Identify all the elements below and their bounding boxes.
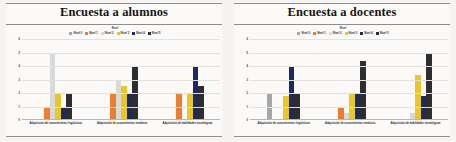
x-axis-labels-alumnos: Adquisición de conocimientos lingüístico… bbox=[22, 121, 220, 134]
y-axis-tick-label: 4 bbox=[246, 65, 248, 68]
gridline bbox=[22, 53, 220, 54]
y-axis-tick-label: 5 bbox=[18, 51, 20, 54]
gridline bbox=[22, 93, 220, 94]
legend-title: Nivel bbox=[8, 27, 222, 30]
gridline bbox=[22, 66, 220, 67]
y-axis-tick-label: 3 bbox=[246, 78, 248, 81]
panel-rule-bottom bbox=[234, 136, 450, 137]
legend-item-5[interactable]: Nivel 5 bbox=[376, 32, 389, 35]
legend-swatch-icon bbox=[85, 32, 88, 35]
legend-swatch-icon bbox=[69, 32, 72, 35]
gridline bbox=[250, 66, 448, 67]
x-axis-line bbox=[22, 119, 220, 120]
legend-label: Nivel 5 bbox=[152, 32, 161, 35]
legend-item-4[interactable]: Nivel 4 bbox=[360, 32, 373, 35]
legend-swatch-icon bbox=[132, 32, 135, 35]
bar[interactable] bbox=[198, 86, 204, 120]
x-axis-category-label: Adquisición de habilidades tecnológicas bbox=[162, 122, 212, 125]
legend-swatch-icon bbox=[148, 32, 151, 35]
y-axis-tick-label: 0 bbox=[246, 119, 248, 122]
legend-label: Nivel 5 bbox=[380, 32, 389, 35]
y-axis-tick-label: 2 bbox=[18, 92, 20, 95]
y-axis-tick-label: 1 bbox=[18, 105, 20, 108]
legend-item-4[interactable]: Nivel 4 bbox=[132, 32, 145, 35]
gridline bbox=[250, 39, 448, 40]
legend-item-0[interactable]: Nivel 0 bbox=[69, 32, 82, 35]
legend-label: Nivel 1 bbox=[317, 32, 326, 35]
legend-swatch-icon bbox=[297, 32, 300, 35]
x-axis-category-label: Adquisición de conocimientos temáticos bbox=[97, 122, 147, 125]
panel-rule-under-title bbox=[234, 24, 450, 25]
x-axis-labels-docentes: Adquisición de conocimientos lingüístico… bbox=[250, 121, 448, 134]
legend-swatch-icon bbox=[313, 32, 316, 35]
legend-item-0[interactable]: Nivel 0 bbox=[297, 32, 310, 35]
panel-rule-top bbox=[234, 3, 450, 4]
legend-item-3[interactable]: Nivel 3 bbox=[117, 32, 130, 35]
legend-label: Nivel 4 bbox=[364, 32, 373, 35]
legend-label: Nivel 1 bbox=[89, 32, 98, 35]
panel-rule-bottom bbox=[6, 136, 222, 137]
legend-item-2[interactable]: Nivel 2 bbox=[101, 32, 114, 35]
x-axis-line bbox=[250, 119, 448, 120]
y-axis-tick-label: 1 bbox=[246, 105, 248, 108]
legend-label: Nivel 4 bbox=[136, 32, 145, 35]
gridline bbox=[22, 80, 220, 81]
legend-label: Nivel 3 bbox=[349, 32, 358, 35]
bar[interactable] bbox=[360, 61, 366, 120]
x-axis-category-label: Adquisición de conocimientos temáticos bbox=[325, 122, 375, 125]
legend-title: Nivel bbox=[236, 27, 450, 30]
legend-swatch-icon bbox=[101, 32, 104, 35]
legend-swatch-icon bbox=[345, 32, 348, 35]
legend-swatch-icon bbox=[117, 32, 120, 35]
legend-swatch-icon bbox=[360, 32, 363, 35]
legend-docentes: Nivel 0Nivel 1Nivel 2Nivel 3Nivel 4Nivel… bbox=[236, 32, 450, 35]
legend-item-1[interactable]: Nivel 1 bbox=[85, 32, 98, 35]
page-title-alumnos: Encuesta a alumnos bbox=[0, 5, 228, 20]
legend-alumnos: Nivel 0Nivel 1Nivel 2Nivel 3Nivel 4Nivel… bbox=[8, 32, 222, 35]
panel-rule-under-title bbox=[6, 24, 222, 25]
gridline bbox=[250, 80, 448, 81]
x-axis-category-label: Adquisición de habilidades tecnológicas bbox=[390, 122, 440, 125]
y-axis-tick-label: 3 bbox=[18, 78, 20, 81]
panel-rule-top bbox=[6, 3, 222, 4]
chart-docentes: Nivel Nivel 0Nivel 1Nivel 2Nivel 3Nivel … bbox=[236, 26, 450, 135]
chart-alumnos: Nivel Nivel 0Nivel 1Nivel 2Nivel 3Nivel … bbox=[8, 26, 222, 135]
legend-item-3[interactable]: Nivel 3 bbox=[345, 32, 358, 35]
y-axis-tick-label: 6 bbox=[18, 38, 20, 41]
y-axis-tick-label: 5 bbox=[246, 51, 248, 54]
legend-label: Nivel 2 bbox=[105, 32, 114, 35]
gridline bbox=[250, 53, 448, 54]
chart-panel-alumnos: Encuesta a alumnos Nivel Nivel 0Nivel 1N… bbox=[0, 0, 228, 142]
x-axis-category-label: Adquisición de conocimientos lingüístico… bbox=[257, 122, 310, 125]
gridline bbox=[22, 107, 220, 108]
legend-label: Nivel 0 bbox=[301, 32, 310, 35]
gridline bbox=[250, 93, 448, 94]
figure-container: Encuesta a alumnos Nivel Nivel 0Nivel 1N… bbox=[0, 0, 456, 142]
plot-area-alumnos: 0123456 bbox=[22, 39, 220, 120]
chart-panel-docentes: Encuesta a docentes Nivel Nivel 0Nivel 1… bbox=[228, 0, 456, 142]
y-axis-tick-label: 0 bbox=[18, 119, 20, 122]
x-axis-category-label: Adquisición de conocimientos lingüístico… bbox=[29, 122, 82, 125]
legend-label: Nivel 0 bbox=[73, 32, 82, 35]
y-axis-tick-label: 4 bbox=[18, 65, 20, 68]
legend-item-2[interactable]: Nivel 2 bbox=[329, 32, 342, 35]
y-axis-tick-label: 2 bbox=[246, 92, 248, 95]
legend-item-1[interactable]: Nivel 1 bbox=[313, 32, 326, 35]
gridline bbox=[250, 107, 448, 108]
legend-label: Nivel 2 bbox=[333, 32, 342, 35]
gridline bbox=[22, 39, 220, 40]
legend-swatch-icon bbox=[329, 32, 332, 35]
bar[interactable] bbox=[426, 53, 432, 121]
legend-item-5[interactable]: Nivel 5 bbox=[148, 32, 161, 35]
legend-swatch-icon bbox=[376, 32, 379, 35]
page-title-docentes: Encuesta a docentes bbox=[228, 5, 456, 20]
legend-label: Nivel 3 bbox=[121, 32, 130, 35]
y-axis-tick-label: 6 bbox=[246, 38, 248, 41]
plot-area-docentes: 0123456 bbox=[250, 39, 448, 120]
